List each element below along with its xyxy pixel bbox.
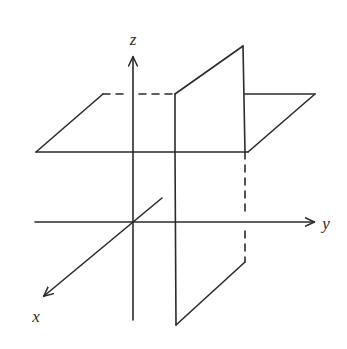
horiz-plane-left-edge	[36, 94, 103, 152]
solid-edges-group	[36, 46, 315, 325]
vert-plane-left-edge-lower	[175, 152, 176, 325]
axis-label-y: y	[320, 214, 330, 233]
axis-label-x: x	[31, 307, 40, 326]
planes-group	[36, 46, 315, 325]
vert-plane-top-edge	[175, 46, 243, 94]
axis-label-z: z	[129, 30, 137, 49]
horiz-plane-right-edge	[248, 94, 315, 152]
figure-canvas: zyx	[0, 0, 347, 349]
axis-labels-group: zyx	[31, 30, 330, 326]
coordinate-system-diagram: zyx	[0, 0, 347, 349]
axis-line-x	[44, 198, 162, 296]
vert-plane-right-edge-upper	[243, 46, 245, 152]
hidden-edges-group	[103, 94, 245, 262]
vert-plane-bottom-edge	[176, 262, 245, 325]
